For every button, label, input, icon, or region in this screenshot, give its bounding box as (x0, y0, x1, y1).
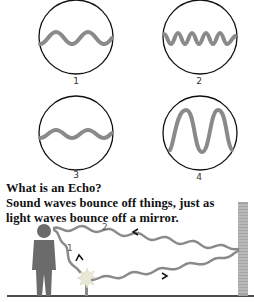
arrow-right-icon (162, 273, 167, 279)
panel-3-wave-circle (39, 96, 113, 170)
sound-path-2 (54, 226, 238, 249)
wall (238, 202, 248, 296)
caption-line-1: Sound waves bounce off things, just as (6, 196, 214, 211)
panel-1-label: 1 (66, 76, 86, 86)
wave-3 (40, 130, 112, 138)
panel-4-wave-circle (163, 96, 237, 170)
person-icon (32, 224, 56, 296)
caption-title: What is an Echo? (6, 181, 214, 196)
panel-3-label: 3 (66, 170, 86, 180)
path-label-2: 2 (102, 222, 108, 232)
arrow-up-icon (76, 255, 83, 261)
caption: What is an Echo? Sound waves bounce off … (6, 181, 214, 226)
panel-2-wave-circle (163, 0, 237, 74)
echo-illustration (0, 0, 254, 302)
wave-1 (40, 32, 112, 44)
caption-line-2: light waves bounce off a mirror. (6, 211, 214, 226)
panel-1-wave-circle (39, 0, 113, 74)
wave-2 (164, 33, 235, 44)
panel-2-label: 2 (189, 76, 209, 86)
path-label-1: 1 (67, 243, 73, 253)
wave-4 (170, 110, 232, 152)
